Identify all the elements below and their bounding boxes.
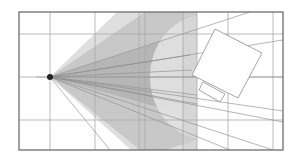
diagram-canvas bbox=[0, 0, 300, 161]
ray-diagram bbox=[0, 0, 300, 161]
band-edge bbox=[183, 12, 197, 150]
source-dot bbox=[47, 74, 53, 80]
